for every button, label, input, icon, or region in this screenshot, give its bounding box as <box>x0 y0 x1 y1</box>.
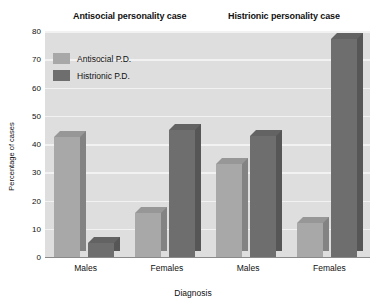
bar <box>297 223 323 257</box>
gridline <box>45 172 370 174</box>
gridline <box>45 31 370 33</box>
bar-face <box>331 39 357 257</box>
y-axis-ticks: 01020304050607080 <box>0 31 41 257</box>
gridline <box>45 144 370 146</box>
bar-side <box>323 217 329 251</box>
group-title-histrionic: Histrionic personality case <box>228 11 340 21</box>
gridline <box>45 201 370 203</box>
bar-face <box>135 213 161 257</box>
bar-top <box>250 130 282 136</box>
bar-side <box>242 158 248 251</box>
y-axis-tick-label: 80 <box>1 27 41 36</box>
legend-swatch <box>53 53 70 64</box>
bar-face <box>216 164 242 257</box>
y-axis-tick-label: 60 <box>1 83 41 92</box>
legend-swatch <box>53 70 70 81</box>
bar-face <box>54 137 80 257</box>
y-axis-tick-label: 0 <box>1 253 41 262</box>
bar-chart-figure: Antisocial personality case Histrionic p… <box>0 0 386 307</box>
bar <box>250 136 276 257</box>
gridline <box>45 116 370 118</box>
y-axis-tick-label: 30 <box>1 168 41 177</box>
x-axis-tick-label: Females <box>313 263 346 273</box>
bar-face <box>250 136 276 257</box>
bar-top <box>54 131 86 137</box>
bar-top <box>88 237 120 243</box>
legend-label: Histrionic P.D. <box>77 71 130 81</box>
bar-side <box>357 33 363 251</box>
bar-side <box>276 130 282 251</box>
y-axis-tick-label: 20 <box>1 196 41 205</box>
y-axis-tick-label: 70 <box>1 55 41 64</box>
bar <box>216 164 242 257</box>
group-title-antisocial: Antisocial personality case <box>73 11 186 21</box>
x-axis-tick-label: Females <box>151 263 184 273</box>
bar <box>169 130 195 257</box>
x-axis-title: Diagnosis <box>0 288 386 298</box>
bar-face <box>169 130 195 257</box>
bar <box>54 137 80 257</box>
legend-label: Antisocial P.D. <box>77 54 131 64</box>
bar <box>135 213 161 257</box>
legend-item: Histrionic P.D. <box>53 68 131 83</box>
chart-legend: Antisocial P.D.Histrionic P.D. <box>53 51 131 85</box>
bar <box>88 243 114 257</box>
bar <box>331 39 357 257</box>
x-axis-tick-label: Males <box>74 263 97 273</box>
gridline <box>45 88 370 90</box>
bar-side <box>195 124 201 251</box>
y-axis-tick-label: 10 <box>1 224 41 233</box>
x-axis-tick-label: Males <box>237 263 260 273</box>
bar-face <box>88 243 114 257</box>
bar-side <box>80 131 86 251</box>
bar-side <box>161 207 167 251</box>
legend-item: Antisocial P.D. <box>53 51 131 66</box>
bar-face <box>297 223 323 257</box>
y-axis-tick-label: 50 <box>1 111 41 120</box>
y-axis-tick-label: 40 <box>1 140 41 149</box>
